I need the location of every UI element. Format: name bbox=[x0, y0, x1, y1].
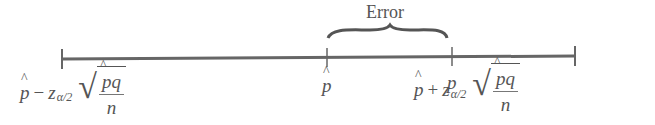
error-brace bbox=[328, 25, 447, 38]
square-root: √ pq n bbox=[78, 66, 126, 119]
error-label: Error bbox=[366, 2, 404, 23]
lower-bound-expression: p − z α/2 √ pq n bbox=[20, 66, 126, 119]
p-hat-label: p bbox=[322, 75, 332, 97]
square-root: √ pq n bbox=[472, 63, 520, 116]
upper-bound-expression: p + z α/2 √ pq n bbox=[414, 63, 520, 116]
